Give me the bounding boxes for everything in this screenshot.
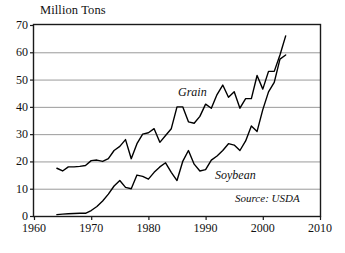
series-label-grain: Grain	[178, 85, 207, 100]
source-note: Source: USDA	[235, 192, 300, 204]
x-tick-label: 1970	[68, 222, 114, 234]
x-tick-label: 1960	[11, 222, 57, 234]
chart-figure: Million Tons 010203040506070 19601970198…	[0, 0, 345, 253]
y-tick-label: 60	[2, 46, 28, 58]
x-tick-label: 2000	[240, 222, 286, 234]
y-tick-label: 40	[2, 101, 28, 113]
y-tick-label: 50	[2, 74, 28, 86]
y-tick-label: 20	[2, 155, 28, 167]
x-tick-label: 1980	[125, 222, 171, 234]
series-line-grain	[57, 36, 286, 171]
plot-frame	[34, 25, 321, 217]
y-tick-label: 70	[2, 19, 28, 31]
x-tick-label: 2010	[297, 222, 343, 234]
x-tick-label: 1990	[183, 222, 229, 234]
y-tick-label: 10	[2, 183, 28, 195]
chart-plot-area	[0, 0, 345, 253]
series-label-soybean: Soybean	[215, 168, 256, 183]
y-tick-label: 30	[2, 128, 28, 140]
